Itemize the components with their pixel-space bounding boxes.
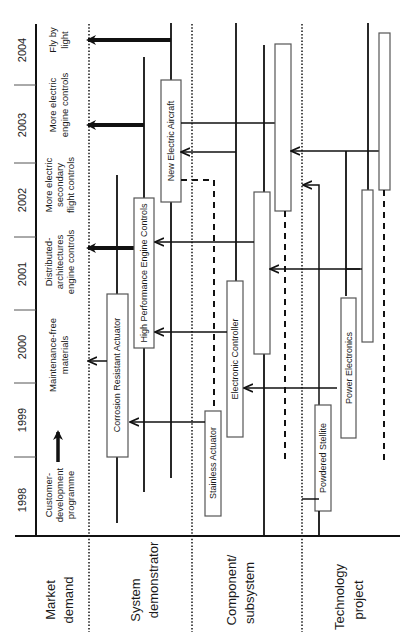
svg-text:Corrosion Resistant Actuator: Corrosion Resistant Actuator xyxy=(112,318,122,433)
year-2000: 2000 xyxy=(16,335,28,359)
year-2002: 2002 xyxy=(16,188,28,212)
lane-technology-l1: Technology xyxy=(332,564,347,630)
year-2004: 2004 xyxy=(16,38,28,62)
box-component-a xyxy=(254,192,270,354)
svg-text:Fly by: Fly by xyxy=(47,27,58,53)
svg-text:Customer-: Customer- xyxy=(43,473,54,517)
box-tech-a xyxy=(362,190,373,342)
box-component-b xyxy=(275,44,291,211)
demand-secondary-flight-controls: More electric secondary flight controls xyxy=(43,157,76,213)
box-tech-b xyxy=(379,33,390,190)
svg-text:New Electric Aircraft: New Electric Aircraft xyxy=(166,100,176,181)
svg-text:Electronic Controller: Electronic Controller xyxy=(230,318,240,399)
svg-text:secondary: secondary xyxy=(54,163,65,207)
svg-text:Powdered Stellite: Powdered Stellite xyxy=(318,423,328,493)
demand-distributed-architectures: Distributed- architectures engine contro… xyxy=(43,230,76,295)
svg-text:programme: programme xyxy=(65,471,76,520)
svg-text:engine controls: engine controls xyxy=(65,230,76,295)
svg-text:Power Electronics: Power Electronics xyxy=(344,331,354,404)
year-labels: 1998 1999 2000 2001 2002 2003 2004 xyxy=(16,38,28,512)
svg-text:engine controls: engine controls xyxy=(59,73,70,138)
lane-labels: Market demand System demonstrator Compon… xyxy=(43,541,366,630)
year-1998: 1998 xyxy=(16,488,28,512)
svg-text:architectures: architectures xyxy=(54,235,65,290)
lane-technology-l2: project xyxy=(351,580,366,619)
dashed-nea-to-secondary xyxy=(181,180,214,440)
svg-text:light: light xyxy=(59,31,70,49)
svg-text:Distributed-: Distributed- xyxy=(43,238,54,287)
lane-system-l2: demonstrator xyxy=(146,541,161,618)
demand-customer-development: Customer- development programme xyxy=(43,467,76,522)
svg-text:flight controls: flight controls xyxy=(65,157,76,213)
year-2003: 2003 xyxy=(16,113,28,137)
demand-fly-by-light: Fly by light xyxy=(47,27,70,53)
svg-text:development: development xyxy=(54,467,65,522)
svg-text:High Performance Engine Contro: High Performance Engine Controls xyxy=(139,203,149,343)
svg-text:Maintenance-free: Maintenance-free xyxy=(47,318,58,392)
roadmap-diagram: 1998 1999 2000 2001 2002 2003 2004 Marke… xyxy=(0,0,405,632)
svg-text:More electric: More electric xyxy=(43,158,54,213)
lane-system-l1: System xyxy=(128,578,143,621)
lane-market-l1: Market xyxy=(43,580,58,620)
year-2001: 2001 xyxy=(16,262,28,286)
lane-market-l2: demand xyxy=(61,577,76,624)
year-1999: 1999 xyxy=(16,408,28,432)
svg-text:Stainless Actuator: Stainless Actuator xyxy=(208,427,218,499)
lane-component-l1: Component/ xyxy=(224,554,239,625)
svg-text:More electric: More electric xyxy=(47,78,58,133)
lane-component-l2: subsystem xyxy=(242,562,257,624)
demand-engine-controls: More electric engine controls xyxy=(47,73,70,138)
demand-maintenance-free: Maintenance-free materials xyxy=(47,318,70,392)
svg-text:materials: materials xyxy=(59,335,70,374)
